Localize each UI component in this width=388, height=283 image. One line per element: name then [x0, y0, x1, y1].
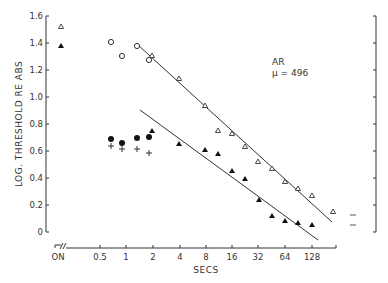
svg-text:16: 16 — [227, 252, 238, 262]
lower-fit-line — [140, 110, 318, 240]
svg-text:μ = 496: μ = 496 — [272, 68, 308, 78]
svg-text:1.4: 1.4 — [29, 38, 43, 48]
series-open-triangles — [58, 24, 335, 214]
svg-text:0: 0 — [38, 227, 43, 237]
x-axis-title: SECS — [193, 265, 218, 275]
svg-text:64: 64 — [280, 252, 291, 262]
y-tick-labels: 1.6 1.4 1.2 1.0 0.8 0.6 0.4 0.2 0 — [29, 11, 43, 237]
svg-text:0.2: 0.2 — [29, 200, 43, 210]
svg-text:1.6: 1.6 — [29, 11, 43, 21]
svg-text:AR: AR — [272, 57, 284, 67]
svg-text:0.5: 0.5 — [93, 252, 107, 262]
svg-text:2: 2 — [150, 252, 155, 262]
svg-text:0.4: 0.4 — [29, 173, 43, 183]
svg-text:0.6: 0.6 — [29, 146, 43, 156]
svg-text:1.0: 1.0 — [29, 92, 43, 102]
annotation: AR μ = 496 — [272, 57, 308, 78]
svg-text:4: 4 — [177, 252, 182, 262]
svg-text:128: 128 — [304, 252, 320, 262]
svg-text:8: 8 — [203, 252, 208, 262]
svg-text:0.8: 0.8 — [29, 119, 43, 129]
chart: 1.6 1.4 1.2 1.0 0.8 0.6 0.4 0.2 0 LOG. T… — [0, 0, 388, 283]
series-plus — [108, 143, 152, 156]
svg-text:ON: ON — [51, 252, 64, 262]
right-markers — [350, 215, 356, 225]
x-axis — [55, 243, 336, 249]
y-axis-title: LOG. THRESHOLD RE ABS — [14, 61, 24, 187]
svg-text:1.2: 1.2 — [29, 65, 43, 75]
x-tick-labels: ON 0.5 1 2 4 8 16 32 64 128 — [51, 252, 320, 262]
y-axis — [46, 16, 49, 232]
series-filled-circles — [108, 134, 152, 146]
right-axis — [373, 16, 376, 232]
svg-text:1: 1 — [123, 252, 128, 262]
svg-text:32: 32 — [253, 252, 264, 262]
